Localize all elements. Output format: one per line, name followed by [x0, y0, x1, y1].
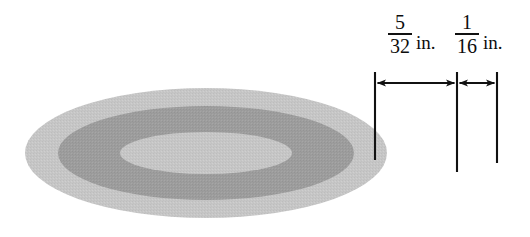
diagram-page: 5 32 in. 1 16 in. — [0, 0, 530, 237]
extension-lines — [375, 72, 497, 172]
fraction-numerator: 5 — [393, 12, 407, 33]
fraction-denominator: 32 — [388, 35, 412, 56]
dimension-label-rim: 1 16 in. — [455, 12, 503, 56]
fraction-5-32: 5 32 — [388, 12, 412, 56]
fraction-denominator: 16 — [455, 35, 479, 56]
dimension-label-outer-band: 5 32 in. — [388, 12, 436, 56]
fraction-1-16: 1 16 — [455, 12, 479, 56]
inner-disc-ellipse — [120, 132, 292, 174]
unit-label: in. — [483, 32, 503, 56]
washer-diagram-svg — [0, 0, 530, 237]
washer-shape — [25, 88, 387, 218]
unit-label: in. — [416, 32, 436, 56]
fraction-numerator: 1 — [460, 12, 474, 33]
